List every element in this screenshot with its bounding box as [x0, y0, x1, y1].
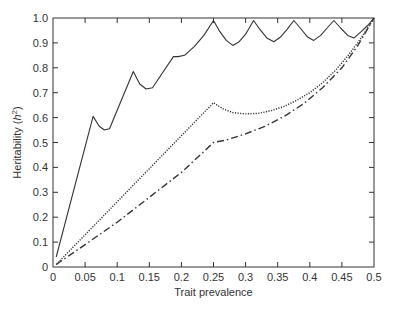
- y-tick-label: 0.7: [33, 87, 48, 99]
- y-tick-label: 0.9: [33, 37, 48, 49]
- x-tick-label: 0: [50, 271, 56, 283]
- x-tick-label: 0.4: [302, 271, 317, 283]
- x-axis-label: Trait prevalence: [174, 286, 252, 298]
- y-tick-label: 0.5: [33, 137, 48, 149]
- y-tick-label: 0.6: [33, 112, 48, 124]
- y-tick-label: 0.4: [33, 161, 48, 173]
- x-tick-label: 0.05: [74, 271, 95, 283]
- y-tick-label: 0.8: [33, 62, 48, 74]
- heritability-chart: 00.050.10.150.20.250.30.350.40.450.5 00.…: [0, 0, 395, 310]
- y-tick-label: 1.0: [33, 12, 48, 24]
- x-tick-label: 0.25: [203, 271, 224, 283]
- y-tick-label: 0.3: [33, 186, 48, 198]
- x-tick-label: 0.5: [366, 271, 381, 283]
- y-axis-label: Heritability (h2): [10, 106, 24, 178]
- x-tick-label: 0.3: [238, 271, 253, 283]
- y-tick-label: 0.2: [33, 211, 48, 223]
- y-tick-label: 0: [42, 261, 48, 273]
- x-tick-label: 0.2: [174, 271, 189, 283]
- x-tick-label: 0.45: [331, 271, 352, 283]
- y-tick-label: 0.1: [33, 236, 48, 248]
- x-tick-label: 0.15: [139, 271, 160, 283]
- x-tick-label: 0.35: [267, 271, 288, 283]
- x-tick-label: 0.1: [110, 271, 125, 283]
